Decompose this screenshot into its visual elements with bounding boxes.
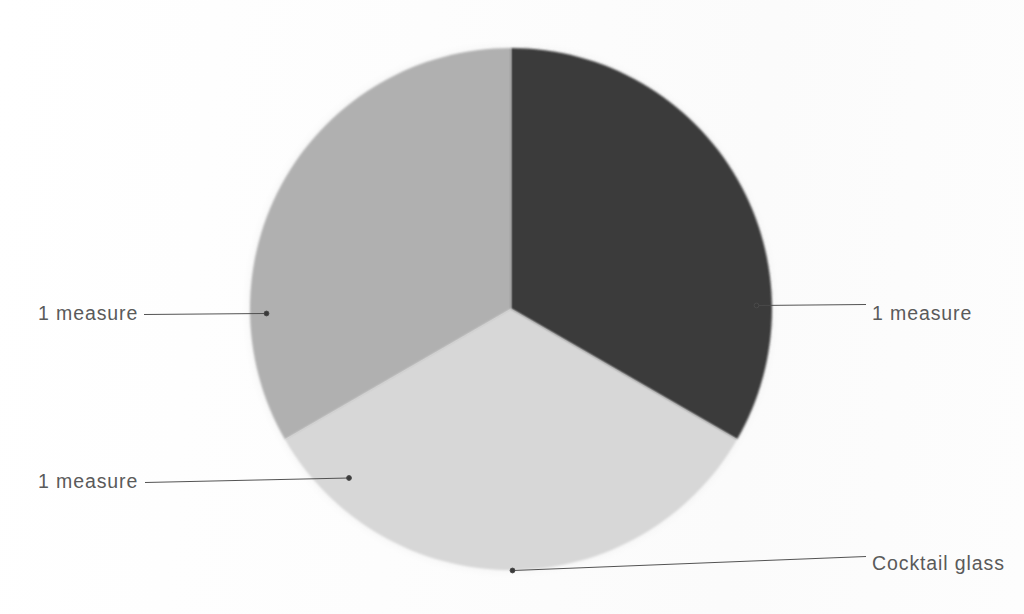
leader-dot-left-middle	[264, 311, 269, 316]
callout-label-left-lower: 1 measure	[38, 470, 138, 493]
diagram-page: 1 measure 1 measure 1 measure Cocktail g…	[0, 0, 1024, 614]
callout-label-left-middle: 1 measure	[38, 302, 138, 325]
pie-chart	[0, 0, 1024, 614]
leader-dot-left-lower	[347, 476, 352, 481]
leader-dot-cocktail-glass	[510, 568, 515, 573]
leader-dot-right-middle	[754, 303, 759, 308]
callout-label-right-middle: 1 measure	[872, 302, 972, 325]
callout-label-cocktail-glass: Cocktail glass	[872, 552, 1005, 575]
pie-chart-svg	[0, 0, 1024, 614]
